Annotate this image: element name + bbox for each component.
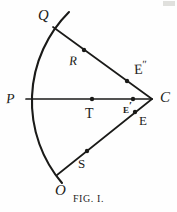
label-c: C	[160, 90, 170, 105]
point-marker-r	[82, 48, 86, 52]
label-e-double-prime: E″	[134, 59, 149, 77]
label-r: R	[69, 54, 78, 67]
ray-c-to-o	[57, 99, 152, 175]
label-e: E	[139, 114, 147, 127]
label-q: Q	[37, 8, 49, 24]
point-marker-e	[133, 110, 137, 114]
point-marker-e-double-prime	[125, 79, 129, 83]
point-marker-s	[85, 149, 89, 153]
label-e-double-prime-marks: ″	[142, 58, 148, 70]
label-p: P	[6, 92, 15, 106]
scan-artifact-mark	[163, 1, 175, 6]
figure-container: Q R E″ P T E′ C E S O FIG. I.	[0, 0, 177, 212]
figure-caption: FIG. I.	[0, 193, 177, 204]
circular-arc-QPO	[32, 12, 69, 183]
point-marker-t	[90, 97, 94, 101]
label-s: S	[78, 157, 85, 170]
label-e-prime-marks: ′	[129, 99, 133, 111]
label-t: T	[85, 107, 94, 121]
label-e-prime: E′	[123, 100, 133, 115]
